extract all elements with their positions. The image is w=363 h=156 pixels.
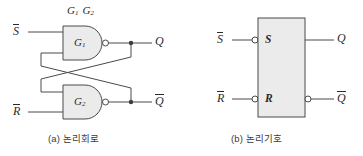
gate-group-g1-name: G	[67, 4, 75, 16]
symbol-input-label-sbar-text: S	[217, 32, 223, 45]
symbol-output-label-q: Q	[337, 32, 346, 44]
symbol-pin-label-s: S	[265, 34, 271, 46]
symbol-output-label-q-text: Q	[337, 31, 346, 45]
gate-label-g1-name: G	[74, 36, 82, 48]
symbol-pin-label-r-text: R	[265, 92, 273, 104]
caption-panel-a: (a) 논리회로	[48, 131, 99, 145]
gate-label-g2-sub: 2	[82, 100, 86, 108]
symbol-input-label-rbar-text: R	[217, 91, 224, 104]
caption-panel-b: (b) 논리기호	[231, 131, 282, 145]
gate-group-g2-sub: 2	[90, 9, 94, 17]
gate-label-g1-sub: 1	[82, 41, 86, 49]
output-label-qbar-text: Q	[155, 94, 164, 107]
output-label-qbar: Q	[155, 94, 164, 107]
inversion-bubble-r-input	[252, 96, 258, 102]
inversion-bubble-g1	[103, 40, 109, 46]
gate-group-g1-sub: 1	[75, 9, 79, 17]
gate-label-g2-name: G	[74, 95, 82, 107]
symbol-input-label-rbar: R	[217, 91, 224, 104]
gate-label-g1: G1	[74, 37, 85, 49]
output-label-q-text: Q	[155, 34, 164, 48]
symbol-input-label-sbar: S	[217, 32, 223, 45]
inversion-bubble-s-input	[252, 37, 258, 43]
input-label-rbar-text: R	[13, 104, 20, 117]
symbol-output-label-qbar-text: Q	[337, 91, 346, 104]
inversion-bubble-qbar-output	[305, 96, 311, 102]
gate-group-label: G1G2	[67, 5, 94, 17]
input-label-sbar: S	[13, 24, 19, 37]
input-label-sbar-text: S	[13, 24, 19, 37]
symbol-pin-label-s-text: S	[265, 33, 271, 45]
figure-sr-latch: G1G2 S R G1 G2 Q Q S R S R Q	[0, 0, 363, 156]
output-label-q: Q	[155, 35, 164, 47]
panel-a-circuit	[28, 26, 152, 119]
gate-label-g2: G2	[74, 96, 85, 108]
inversion-bubble-g2	[103, 99, 109, 105]
panel-b-symbol	[232, 18, 334, 117]
input-label-rbar: R	[13, 104, 20, 117]
symbol-pin-label-r: R	[265, 93, 273, 105]
symbol-output-label-qbar: Q	[337, 91, 346, 104]
